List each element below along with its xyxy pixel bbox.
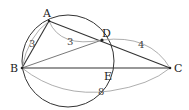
point-b bbox=[21, 67, 24, 70]
measure-bc-label: 8 bbox=[98, 86, 104, 97]
measure-ad-label: 3 bbox=[67, 36, 73, 47]
label-b: B bbox=[10, 62, 18, 75]
measure-ab-label: 3 bbox=[29, 38, 35, 49]
point-a bbox=[48, 20, 51, 23]
label-e: E bbox=[104, 70, 112, 83]
point-c bbox=[169, 67, 172, 70]
label-d: D bbox=[102, 27, 111, 40]
measure-arc-bc bbox=[22, 68, 170, 92]
label-a: A bbox=[42, 7, 52, 20]
geometry-diagram: A B C D E 3 3 4 8 bbox=[0, 0, 189, 110]
measure-dc-label: 4 bbox=[138, 39, 144, 50]
label-c: C bbox=[174, 62, 182, 75]
